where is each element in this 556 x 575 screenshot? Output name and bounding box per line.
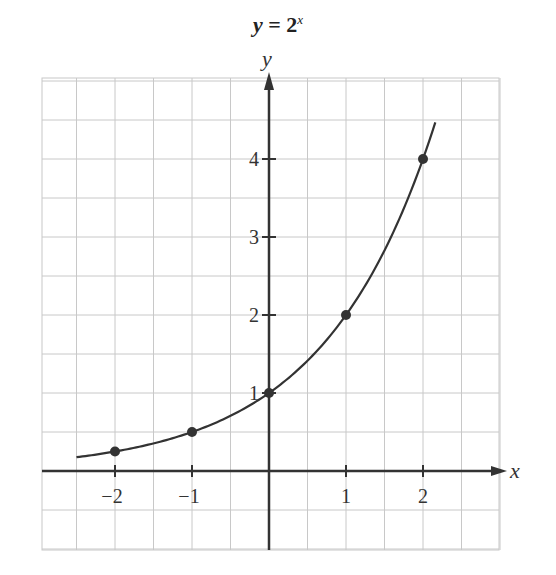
exponential-curve bbox=[77, 122, 436, 457]
x-tick-label: −2 bbox=[101, 485, 122, 507]
data-point bbox=[187, 427, 197, 437]
y-tick-label: 3 bbox=[249, 226, 259, 248]
x-axis-label: x bbox=[509, 458, 520, 483]
axes bbox=[42, 72, 507, 550]
data-point bbox=[264, 388, 274, 398]
data-point bbox=[418, 154, 428, 164]
y-axis-label: y bbox=[260, 46, 272, 71]
data-point bbox=[341, 310, 351, 320]
x-tick-label: −1 bbox=[178, 485, 199, 507]
data-point bbox=[110, 447, 120, 457]
chart-plot: −2−1121234 x y bbox=[0, 0, 556, 575]
x-tick-label: 1 bbox=[341, 485, 351, 507]
y-tick-label: 2 bbox=[249, 304, 259, 326]
x-tick-label: 2 bbox=[418, 485, 428, 507]
ticks: −2−1121234 bbox=[101, 148, 428, 507]
y-tick-label: 4 bbox=[249, 148, 259, 170]
